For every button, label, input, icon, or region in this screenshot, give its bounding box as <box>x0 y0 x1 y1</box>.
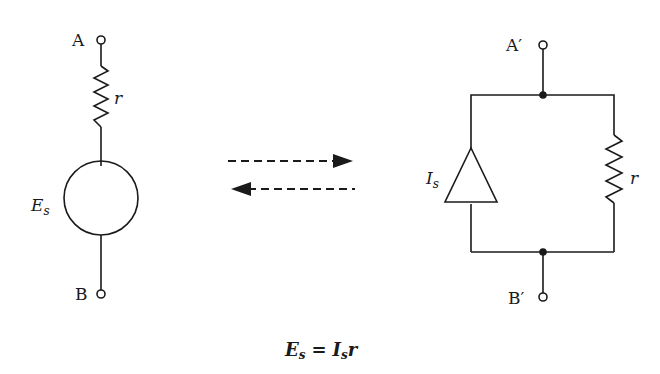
left-circuit <box>64 36 138 298</box>
resistor-r-left <box>94 66 108 127</box>
resistor-r-right <box>606 135 622 203</box>
equation: Es=Isr <box>284 339 359 362</box>
label-a: A <box>71 30 85 50</box>
voltage-source-es <box>64 161 138 235</box>
label-b: B <box>75 284 88 304</box>
terminal-b <box>97 290 105 298</box>
current-source-is <box>445 148 497 202</box>
label-es: Es <box>30 195 50 218</box>
equivalent-source-diagram: A r Es B A′ Is r B′ Es=Isr <box>0 0 660 374</box>
transform-arrows <box>228 154 355 196</box>
terminal-a <box>97 36 105 44</box>
label-b-prime: B′ <box>508 288 524 308</box>
label-r-left: r <box>114 88 123 108</box>
label-is: Is <box>425 168 439 191</box>
label-r-right: r <box>630 168 639 188</box>
terminal-b-prime <box>539 293 547 301</box>
label-a-prime: A′ <box>505 35 522 55</box>
terminal-a-prime <box>539 41 547 49</box>
right-circuit <box>445 41 622 301</box>
